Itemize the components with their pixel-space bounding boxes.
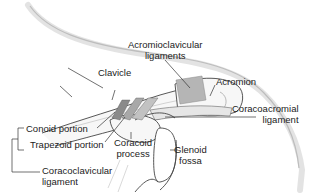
- label-clavicle: Clavicle: [98, 67, 131, 78]
- label-acromioclavicular-ligaments: Acromioclavicular ligaments: [128, 39, 202, 61]
- label-line-1: Coracoclavicular: [42, 165, 112, 176]
- label-coracoacromial-ligament: Coracoacromial ligament: [232, 103, 299, 125]
- label-line-2: ligaments: [128, 50, 202, 61]
- label-line-1: Acromioclavicular: [128, 39, 202, 50]
- label-glenoid-fossa: Glenoid fossa: [174, 144, 207, 166]
- label-line-2: process: [114, 148, 152, 159]
- label-line-2: fossa: [174, 155, 207, 166]
- label-coracoid-process: Coracoid process: [114, 137, 152, 159]
- label-line-1: Coracoid: [114, 137, 152, 148]
- label-conoid-portion: Conoid portion: [26, 123, 88, 134]
- label-acromion: Acromion: [216, 76, 256, 87]
- label-line-1: Coracoacromial: [232, 103, 299, 114]
- label-line-2: ligament: [42, 176, 112, 187]
- label-coracoclavicular-ligament: Coracoclavicular ligament: [42, 165, 112, 187]
- label-line-1: Glenoid: [174, 144, 207, 155]
- shoulder-ligament-diagram: Acromioclavicular ligaments Clavicle Acr…: [0, 0, 314, 196]
- label-line-2: ligament: [232, 114, 299, 125]
- label-trapezoid-portion: Trapezoid portion: [30, 139, 104, 150]
- acromioclavicular-ligament: [176, 76, 206, 104]
